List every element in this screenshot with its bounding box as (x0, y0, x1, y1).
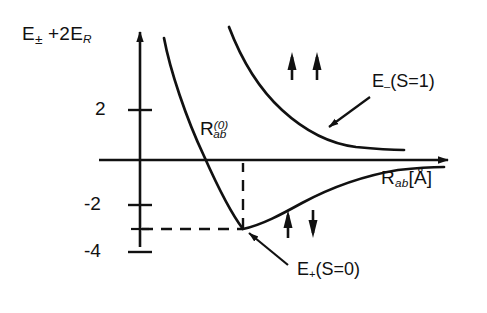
triplet-label-e: E (372, 71, 384, 91)
leader-line-singlet (249, 233, 288, 265)
spin-arrows-antiparallel (284, 210, 318, 238)
spin-down-arrow-1 (309, 210, 318, 238)
y-axis-title-e2: E (70, 23, 83, 44)
spin-up-arrow-2 (313, 52, 322, 80)
y-axis-title-sub-r: R (83, 32, 92, 45)
equilibrium-distance-label: R(0)ab (200, 119, 226, 138)
x-axis-title-r: R (381, 167, 395, 188)
y-tick-label-minus-4: -4 (84, 241, 101, 260)
singlet-label-e: E (297, 259, 309, 279)
y-tick-label-2: 2 (95, 99, 106, 118)
y-axis-title-plus-two: +2 (43, 23, 71, 44)
y-axis-title-plusminus: ± (35, 32, 43, 47)
spin-up-arrow-1 (288, 52, 297, 80)
leader-line-triplet (329, 97, 370, 127)
spin-up-arrow-3 (284, 210, 293, 238)
equilibrium-label-sub-ab: ab (213, 127, 226, 140)
singlet-label-state: (S=0) (316, 259, 361, 279)
y-axis-title-e: E (22, 23, 35, 44)
x-axis-title-sub-ab: ab (395, 176, 409, 189)
spin-arrows-parallel (288, 52, 322, 80)
plot-canvas (0, 0, 487, 313)
equilibrium-label-r: R (200, 118, 214, 139)
potential-energy-diagram: E± +2ER 2 -2 -4 Rab[Å] R(0)ab E–(S=1) E+… (0, 0, 487, 313)
x-axis-title: Rab[Å] (381, 168, 432, 187)
triplet-label-state: (S=1) (390, 71, 435, 91)
y-tick-label-minus-2: -2 (84, 194, 101, 213)
y-axis-title: E± +2ER (22, 24, 92, 47)
singlet-curve-label: E+(S=0) (297, 260, 360, 278)
x-axis-title-unit: [Å] (408, 167, 432, 188)
triplet-curve-label: E–(S=1) (372, 72, 435, 90)
